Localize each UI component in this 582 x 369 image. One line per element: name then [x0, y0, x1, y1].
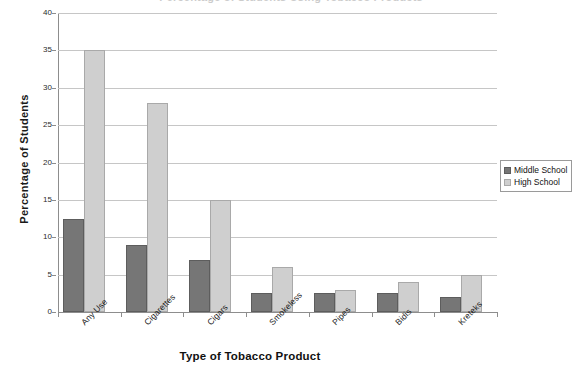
y-axis-tick-label: 20	[26, 159, 52, 167]
legend-swatch-icon	[504, 179, 511, 186]
chart-legend: Middle SchoolHigh School	[500, 160, 572, 192]
bar	[84, 50, 105, 312]
x-axis-tick-mark	[309, 312, 310, 317]
bar-group	[183, 13, 246, 312]
y-axis-tick-mark	[52, 237, 56, 238]
y-axis-tick-mark	[52, 13, 56, 14]
bar	[63, 219, 84, 312]
bar	[314, 293, 335, 312]
bar-group	[309, 13, 372, 312]
legend-label: Middle School	[514, 165, 567, 175]
y-axis-tick-mark	[52, 312, 56, 313]
x-axis-tick-mark	[121, 312, 122, 317]
y-axis-tick-mark	[52, 200, 56, 201]
bar-group	[434, 13, 497, 312]
y-axis-tick-label: 40	[26, 9, 52, 17]
legend-label: High School	[514, 177, 560, 187]
y-axis-tick-mark	[52, 88, 56, 89]
bar	[377, 293, 398, 312]
bar	[440, 297, 461, 312]
x-axis-tick-mark	[434, 312, 435, 317]
bar	[210, 200, 231, 312]
x-axis-tick-mark	[497, 312, 498, 317]
y-axis-tick-label: 0	[26, 308, 52, 316]
x-axis-tick-mark	[58, 312, 59, 317]
legend-entry[interactable]: High School	[504, 176, 567, 188]
bar-chart: Percentage of Students Using Tobacco Pro…	[0, 0, 582, 369]
bar	[147, 103, 168, 312]
plot-area	[58, 13, 497, 312]
y-axis-tick-label: 15	[26, 196, 52, 204]
y-axis-tick-label: 30	[26, 84, 52, 92]
bar	[251, 293, 272, 312]
y-axis-tick-label: 25	[26, 121, 52, 129]
bar	[398, 282, 419, 312]
y-axis-tick-mark	[52, 163, 56, 164]
y-axis-tick-labels: 4035302520151050	[26, 13, 52, 312]
bar-group	[246, 13, 309, 312]
legend-swatch-icon	[504, 167, 511, 174]
y-axis-tick-label: 5	[26, 271, 52, 279]
chart-title: Percentage of Students Using Tobacco Pro…	[0, 0, 582, 3]
y-axis-tick-label: 10	[26, 233, 52, 241]
bar-group	[121, 13, 184, 312]
bar	[126, 245, 147, 312]
x-axis-tick-mark	[183, 312, 184, 317]
x-axis-title: Type of Tobacco Product	[0, 350, 500, 362]
bar-group	[58, 13, 121, 312]
bar-group	[372, 13, 435, 312]
y-axis-tick-mark	[52, 125, 56, 126]
legend-entry[interactable]: Middle School	[504, 164, 567, 176]
x-axis-tick-mark	[372, 312, 373, 317]
y-axis-tick-mark	[52, 275, 56, 276]
bar	[189, 260, 210, 312]
y-axis-tick-label: 35	[26, 46, 52, 54]
x-axis-tick-mark	[246, 312, 247, 317]
y-axis-tick-mark	[52, 50, 56, 51]
